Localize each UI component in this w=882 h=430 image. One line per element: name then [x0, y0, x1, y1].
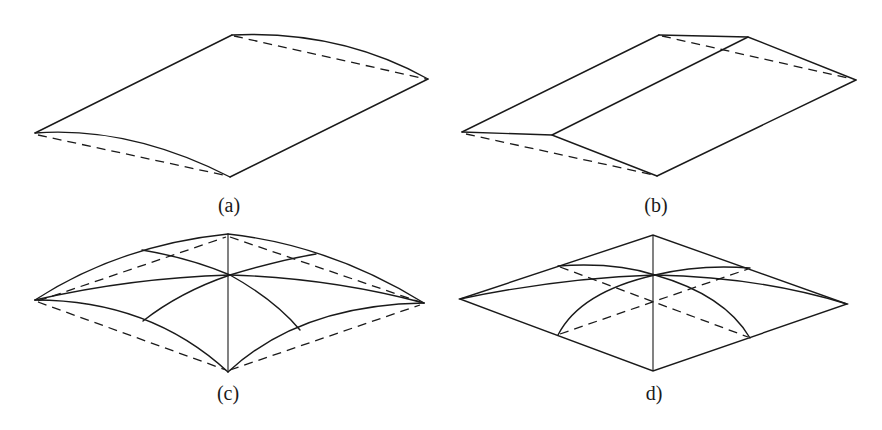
- panel-d-label: d): [646, 382, 663, 405]
- panel-a-left-edge: [35, 35, 232, 133]
- panel-d-square-dome: d): [460, 235, 847, 405]
- panel-c-lower-left-edge: [35, 300, 228, 372]
- panel-d-arc-upper-left: [558, 265, 655, 275]
- panel-c-base-upper-left: [38, 237, 226, 301]
- shell-forms-figure: (a) (b) (c): [0, 0, 882, 430]
- panel-c-base-lower-left: [38, 302, 226, 370]
- panel-c-arc-lower-right: [230, 275, 300, 330]
- panel-c-arc-upper-left: [142, 250, 230, 275]
- panel-c-label: (c): [217, 382, 239, 405]
- panel-c-upper-left-edge: [35, 234, 228, 300]
- panel-b-label: (b): [644, 194, 667, 217]
- panel-a-cylindrical-shell: (a): [35, 35, 428, 217]
- panel-c-right-meridian: [230, 275, 424, 303]
- panel-a-right-edge: [230, 79, 428, 177]
- panel-c-curved-dome: (c): [35, 234, 424, 405]
- panel-b-right-eave: [657, 80, 856, 176]
- panel-c-base-lower-right: [230, 305, 420, 370]
- panel-b-left-eave: [462, 35, 659, 132]
- panel-c-lower-right-edge: [228, 303, 424, 372]
- panel-b-front-base: [466, 134, 654, 175]
- panel-d-right-arc: [655, 275, 847, 304]
- panel-c-arc-upper-right: [230, 254, 316, 275]
- panel-b-ridge: [552, 37, 748, 135]
- panel-a-label: (a): [218, 194, 240, 217]
- panel-b-back-base: [662, 36, 852, 79]
- panel-d-left-arc: [460, 275, 655, 299]
- panel-c-left-meridian: [35, 275, 230, 300]
- panel-c-arc-lower-left: [143, 275, 230, 321]
- panel-b-folded-plate: (b): [462, 35, 856, 217]
